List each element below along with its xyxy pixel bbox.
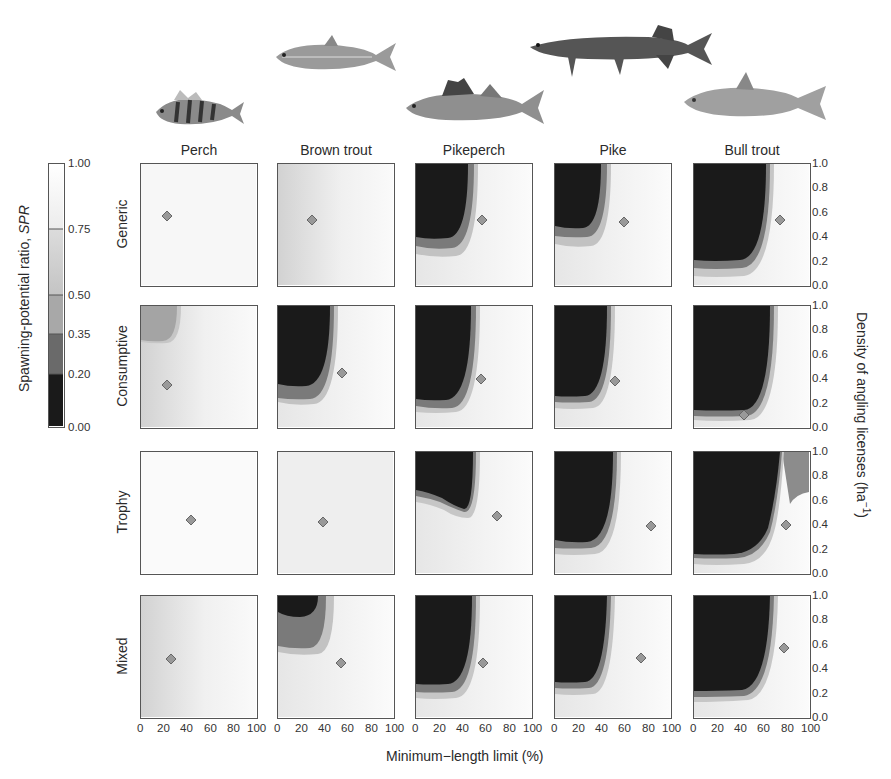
panel-consumptive-perch xyxy=(140,305,258,429)
row-title-trophy: Trophy xyxy=(114,450,130,574)
panel-trophy-brown-trout xyxy=(277,451,395,575)
brown-trout-icon xyxy=(272,35,400,77)
column-title-perch: Perch xyxy=(129,142,269,158)
colorbar-tick: 0.75 xyxy=(68,223,90,235)
colorbar-tick: 0.00 xyxy=(68,421,90,433)
bull-trout-icon xyxy=(680,72,830,128)
colorbar-tick: 0.50 xyxy=(68,289,90,301)
row-title-generic: Generic xyxy=(114,162,130,286)
panel-consumptive-bull-trout xyxy=(693,305,811,429)
panel-mixed-bull-trout xyxy=(693,595,811,719)
panel-consumptive-brown-trout xyxy=(277,305,395,429)
panel-mixed-pikeperch xyxy=(415,595,533,719)
colorbar-tick: 0.20 xyxy=(68,368,90,380)
colorbar-label: Spawning-potential ratio, SPR xyxy=(16,205,32,392)
panel-generic-pikeperch xyxy=(415,163,533,287)
panel-generic-perch xyxy=(140,163,258,287)
column-title-pike: Pike xyxy=(543,142,683,158)
panel-generic-brown-trout xyxy=(277,163,395,287)
row-title-mixed: Mixed xyxy=(114,594,130,718)
panel-mixed-brown-trout xyxy=(277,595,395,719)
x-axis-label: Minimum−length limit (%) xyxy=(386,748,544,764)
panel-mixed-perch xyxy=(140,595,258,719)
perch-icon xyxy=(150,86,246,132)
column-title-brown-trout: Brown trout xyxy=(266,142,406,158)
pikeperch-icon xyxy=(402,76,548,128)
colorbar-tick: 1.00 xyxy=(68,157,90,169)
colorbar xyxy=(48,163,65,428)
panel-trophy-pikeperch xyxy=(415,451,533,575)
panel-trophy-bull-trout xyxy=(693,451,811,575)
panel-trophy-perch xyxy=(140,451,258,575)
panel-consumptive-pike xyxy=(554,305,672,429)
row-title-consumptive: Consumptive xyxy=(114,304,130,428)
column-title-bull-trout: Bull trout xyxy=(682,142,822,158)
panel-consumptive-pikeperch xyxy=(415,305,533,429)
colorbar-tick: 0.35 xyxy=(68,328,90,340)
panel-mixed-pike xyxy=(554,595,672,719)
y-axis-label: Density of angling licenses (ha−1) xyxy=(854,312,872,518)
pike-icon xyxy=(528,25,716,79)
panel-generic-bull-trout xyxy=(693,163,811,287)
column-title-pikeperch: Pikeperch xyxy=(404,142,544,158)
panel-trophy-pike xyxy=(554,451,672,575)
panel-generic-pike xyxy=(554,163,672,287)
